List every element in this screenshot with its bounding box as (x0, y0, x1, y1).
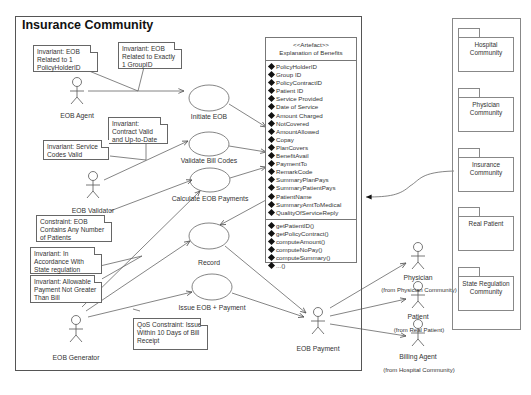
artifact-header: <<Artefact>> Explanation of Benefits (266, 38, 356, 61)
attribute: PaymentTo (269, 160, 356, 168)
attribute: Service Provided (269, 95, 356, 103)
actor-billing-agent[interactable]: Billing Agent (388, 353, 448, 360)
note-any-patients: Constraint: EOB Contains Any Number of P… (36, 215, 112, 242)
actor-physician-origin: (from Physician Community) (378, 287, 460, 293)
usecase-record[interactable]: Record (189, 259, 229, 266)
operation: getPatientID() (269, 222, 356, 230)
usecase-initiate-eob[interactable]: Initiate EOB (179, 113, 239, 120)
artifact-explanation-of-benefits[interactable]: <<Artefact>> Explanation of Benefits Pol… (265, 37, 357, 263)
actor-eob-validator[interactable]: EOB Validator (63, 207, 123, 214)
package-label: Physician Community (458, 97, 514, 132)
actor-patient[interactable]: Patient (388, 313, 448, 320)
package-physician-community[interactable]: Physician Community (458, 88, 514, 132)
package-tab (458, 28, 480, 37)
attribute: Date of Service (269, 103, 356, 111)
artifact-name: Explanation of Benefits (266, 49, 356, 57)
operation: computeAmount() (269, 238, 356, 246)
attribute: PolicyHolderID (269, 63, 356, 71)
attribute: SummaryAmtToMedical (269, 201, 356, 209)
operation: ...() (269, 262, 356, 270)
usecase-calculate-eob-payments[interactable]: Calculate EOB Payments (165, 195, 255, 202)
package-real-patient[interactable]: Real Patient (458, 207, 514, 251)
note-policyholder: Invariant: EOB Related to 1 PolicyHolder… (33, 45, 98, 72)
usecase-issue-eob-payment[interactable]: Issue EOB + Payment (172, 304, 252, 311)
attribute: PatientName (269, 193, 356, 201)
attribute: Group ID (269, 71, 356, 79)
attribute: RemarkCode (269, 168, 356, 176)
artifact-attributes: PolicyHolderID Group ID PolicyContractID… (266, 61, 356, 220)
package-tab (458, 267, 480, 276)
package-label: State Regulation Community (458, 276, 514, 311)
package-label: Real Patient (458, 216, 514, 251)
actor-patient-origin: (from Real Patient) (378, 327, 460, 333)
attribute: BenefitAvail (269, 152, 356, 160)
operation: computeSummary() (269, 254, 356, 262)
note-qos-constraint: QoS Constraint: Issue Within 10 Days of … (133, 318, 208, 350)
attribute: Amount Charged (269, 112, 356, 120)
operation: getPolicyContract() (269, 230, 356, 238)
note-contract-valid: Invariant: Contract Valid and Up-to-Date (108, 117, 168, 144)
attribute: NotCovered (269, 120, 356, 128)
attribute: Patient ID (269, 87, 356, 95)
attribute: SummaryPlanPays (269, 176, 356, 184)
actor-physician[interactable]: Physician (388, 274, 448, 281)
package-tab (458, 148, 480, 157)
frame-title: Insurance Community (22, 18, 153, 32)
note-service-codes: Invariant: Service Codes Valid (43, 140, 109, 160)
package-insurance-community[interactable]: Insurance Community (458, 148, 514, 192)
note-allowable-payment: Invariant: Allowable Payment Not Greater… (30, 275, 102, 303)
attribute: AmountAllowed (269, 128, 356, 136)
actor-eob-generator[interactable]: EOB Generator (45, 354, 107, 361)
attribute: PolicyContractID (269, 79, 356, 87)
usecase-validate-bill-codes[interactable]: Validate Bill Codes (169, 157, 249, 164)
attribute: PlanCovers (269, 144, 356, 152)
actor-eob-agent[interactable]: EOB Agent (52, 112, 102, 119)
artifact-stereotype: <<Artefact>> (266, 41, 356, 49)
attribute: QualityOfServiceReply (269, 209, 356, 217)
package-state-regulation-community[interactable]: State Regulation Community (458, 267, 514, 311)
package-label: Hospital Community (458, 37, 514, 72)
package-tab (458, 207, 480, 216)
actor-eob-payment[interactable]: EOB Payment (290, 345, 346, 352)
note-groupid: Invariant: EOB Related to Exactly 1 Grou… (118, 42, 182, 69)
attribute: Copay (269, 136, 356, 144)
package-label: Insurance Community (458, 157, 514, 192)
note-state-regulation: Invariant: In Accordance With State regu… (30, 247, 102, 274)
artifact-operations: getPatientID() getPolicyContract() compu… (266, 220, 356, 273)
actor-billing-agent-origin: (from Hospital Community) (378, 367, 460, 373)
attribute: SummaryPatientPays (269, 184, 356, 192)
package-hospital-community[interactable]: Hospital Community (458, 28, 514, 72)
package-tab (458, 88, 480, 97)
operation: computeNoPay() (269, 246, 356, 254)
